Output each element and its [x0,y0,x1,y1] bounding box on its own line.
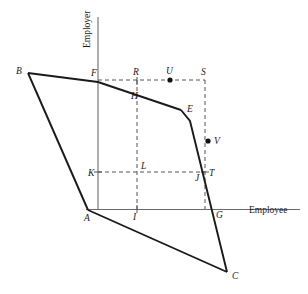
boundary-E-G-C [181,110,227,272]
label-R: R [132,67,139,77]
label-H: H [130,91,139,101]
label-B: B [16,66,22,76]
point-dot-U [167,77,172,82]
boundary-B-F-E [28,73,181,110]
boundary-A-B [28,73,88,210]
point-dot-V [205,138,210,143]
label-S: S [201,67,206,77]
diagram-root: A B C E F G H I J K L R S T U V Employer… [0,0,308,294]
label-G: G [216,210,223,220]
label-L: L [140,161,146,171]
label-E: E [186,104,193,114]
boundary-C-A [88,210,227,272]
x-axis-label: Employee [249,205,288,215]
label-J: J [195,173,200,183]
label-I: I [132,212,137,222]
label-T: T [209,168,215,178]
label-C: C [232,271,239,281]
label-U: U [166,66,174,76]
employer-employee-figure: A B C E F G H I J K L R S T U V Employer… [0,0,308,294]
label-V: V [214,136,221,146]
label-K: K [87,168,95,178]
label-F: F [90,68,97,78]
label-A: A [83,213,90,223]
y-axis-label: Employer [82,10,92,48]
